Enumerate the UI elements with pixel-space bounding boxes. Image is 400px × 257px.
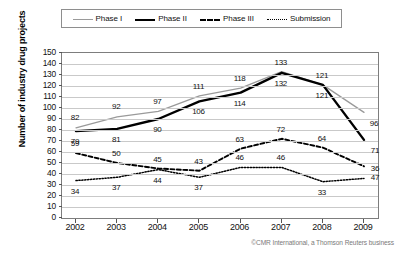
- legend-label: Phase III: [223, 14, 254, 23]
- data-label: 71: [371, 145, 379, 154]
- data-label: 59: [71, 139, 79, 148]
- gridline: [62, 141, 378, 142]
- y-axis-tick-label: 100: [34, 102, 56, 112]
- y-axis-tickmark: [59, 118, 62, 119]
- y-axis-tick-label: 120: [34, 80, 56, 90]
- y-axis-tickmark: [59, 151, 62, 152]
- gridline: [62, 152, 378, 153]
- x-axis-tick-label: 2006: [230, 222, 249, 232]
- legend-item-phase-3: Phase III: [200, 14, 254, 23]
- y-axis-tick-label: 110: [34, 91, 56, 101]
- data-label: 114: [234, 98, 246, 107]
- data-label: 97: [153, 97, 161, 106]
- legend-item-phase-2: Phase II: [135, 14, 187, 23]
- legend-item-submission: Submission: [267, 14, 330, 23]
- legend-label: Submission: [290, 14, 330, 23]
- gridline: [62, 163, 378, 164]
- y-axis-title: Number of industry drug projects: [17, 0, 27, 163]
- y-axis-tickmark: [59, 52, 62, 53]
- y-axis-tickmark: [59, 195, 62, 196]
- data-label: 45: [153, 154, 161, 163]
- gridline: [62, 196, 378, 197]
- x-axis-tick-label: 2002: [65, 222, 84, 232]
- data-label: 44: [153, 175, 161, 184]
- legend-item-phase-1: Phase I: [73, 14, 122, 23]
- gridline: [62, 108, 378, 109]
- y-axis-tick-label: 80: [34, 124, 56, 134]
- x-axis-tick-label: 2005: [189, 222, 208, 232]
- data-label: 132: [274, 78, 286, 87]
- series-lines: [62, 53, 378, 218]
- x-axis-tick-label: 2009: [353, 222, 372, 232]
- data-label: 33: [318, 187, 326, 196]
- data-label: 43: [194, 156, 202, 165]
- data-label: 133: [274, 57, 286, 66]
- data-label: 72: [277, 124, 285, 133]
- copyright-credit: ©CMR International, a Thomson Reuters bu…: [251, 239, 394, 246]
- plot-area: [61, 52, 379, 219]
- legend-label: Phase I: [96, 14, 122, 23]
- y-axis-tickmark: [59, 107, 62, 108]
- data-label: 118: [234, 74, 246, 83]
- y-axis-tickmark: [59, 74, 62, 75]
- x-axis-tickmark: [322, 219, 323, 223]
- y-axis-tick-label: 30: [34, 179, 56, 189]
- y-axis-tick-label: 60: [34, 146, 56, 156]
- x-axis-tickmark: [363, 219, 364, 223]
- chart-figure: Phase I Phase II Phase III Submission Nu…: [0, 0, 400, 257]
- gridline: [62, 185, 378, 186]
- y-axis-tick-label: 90: [34, 113, 56, 123]
- x-axis-tick-labels: 20022003200420052006200720082009: [61, 222, 379, 236]
- y-axis-tickmark: [59, 129, 62, 130]
- legend-label: Phase II: [158, 14, 187, 23]
- gridline: [62, 130, 378, 131]
- y-axis-tick-label: 10: [34, 201, 56, 211]
- y-axis-tick-label: 150: [34, 47, 56, 57]
- data-label: 46: [277, 153, 285, 162]
- x-axis-tick-label: 2003: [107, 222, 126, 232]
- data-label: 34: [71, 186, 79, 195]
- data-label: 37: [112, 183, 120, 192]
- data-label: 81: [112, 134, 120, 143]
- data-label: 111: [193, 81, 204, 90]
- x-axis-tickmark: [281, 219, 282, 223]
- gridline: [62, 207, 378, 208]
- y-axis-tick-labels: 0102030405060708090100110120130140150: [30, 52, 56, 219]
- y-axis-tickmark: [59, 96, 62, 97]
- data-label: 47: [371, 173, 379, 182]
- data-label: 121: [316, 70, 328, 79]
- data-label: 46: [235, 153, 243, 162]
- gridline: [62, 174, 378, 175]
- y-axis-tickmark: [59, 217, 62, 218]
- y-axis-tickmark: [59, 162, 62, 163]
- y-axis-tick-label: 50: [34, 157, 56, 167]
- y-axis-tickmark: [59, 140, 62, 141]
- gridline: [62, 86, 378, 87]
- data-label: 90: [153, 125, 161, 134]
- y-axis-tick-label: 0: [34, 212, 56, 222]
- line-solid-gray-icon: [73, 15, 93, 22]
- data-label: 63: [235, 134, 243, 143]
- data-label: 121: [316, 90, 328, 99]
- x-axis-tick-label: 2008: [312, 222, 331, 232]
- data-label: 82: [71, 112, 79, 121]
- data-label: 96: [370, 119, 378, 128]
- y-axis-tickmark: [59, 206, 62, 207]
- y-axis-tickmark: [59, 85, 62, 86]
- line-dotted-icon: [267, 15, 287, 22]
- gridline: [62, 97, 378, 98]
- gridline: [62, 119, 378, 120]
- y-axis-tickmark: [59, 173, 62, 174]
- x-axis-tickmark: [116, 219, 117, 223]
- x-axis-tickmark: [75, 219, 76, 223]
- data-label: 36: [371, 164, 379, 173]
- x-axis-tick-label: 2004: [148, 222, 167, 232]
- x-axis-tick-label: 2007: [271, 222, 290, 232]
- y-axis-tick-label: 130: [34, 69, 56, 79]
- x-axis-tickmark: [198, 219, 199, 223]
- line-solid-black-icon: [135, 15, 155, 22]
- gridline: [62, 75, 378, 76]
- data-label: 92: [112, 101, 120, 110]
- y-axis-tick-label: 140: [34, 58, 56, 68]
- data-label: 106: [192, 107, 204, 116]
